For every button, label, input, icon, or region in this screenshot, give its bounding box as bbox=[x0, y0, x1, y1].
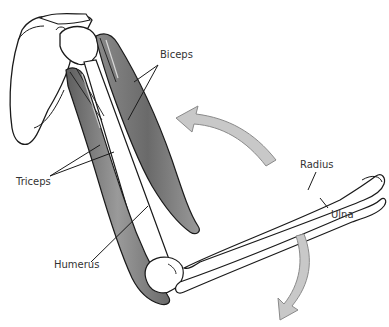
label-biceps: Biceps bbox=[160, 50, 193, 60]
label-triceps: Triceps bbox=[16, 177, 51, 187]
upper-arrow bbox=[176, 106, 276, 166]
label-ulna: Ulna bbox=[331, 210, 354, 220]
label-humerus: Humerus bbox=[54, 260, 99, 270]
label-radius: Radius bbox=[300, 160, 334, 170]
forearm-bones bbox=[176, 175, 386, 293]
